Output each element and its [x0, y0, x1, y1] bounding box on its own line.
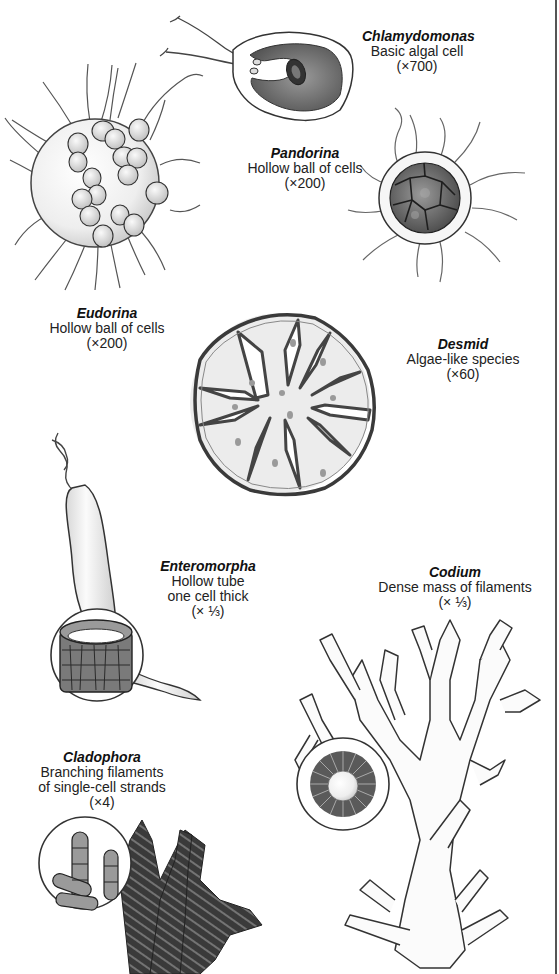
pandorina-illustration	[348, 108, 525, 282]
species-description: Hollow ball of cells	[234, 161, 376, 176]
label-desmid: Desmid Algae-like species (×60)	[392, 337, 534, 382]
species-description: Algae-like species	[392, 352, 534, 367]
species-name: Cladophora	[16, 750, 188, 765]
label-cladophora: Cladophora Branching filaments of single…	[16, 750, 188, 810]
species-description: Basic algal cell	[362, 44, 472, 59]
species-name: Desmid	[392, 337, 534, 352]
label-eudorina: Eudorina Hollow ball of cells (×200)	[36, 306, 178, 351]
magnification: (×200)	[36, 336, 178, 351]
label-codium: Codium Dense mass of filaments (× ⅓)	[360, 565, 550, 610]
label-chlamydomonas: Chlamydomonas Basic algal cell (×700)	[362, 29, 472, 74]
species-name: Codium	[360, 565, 550, 580]
magnification: (×700)	[362, 59, 472, 74]
species-description-line2: of single-cell strands	[16, 780, 188, 795]
species-description: Hollow tube	[148, 574, 268, 589]
species-description-line2: one cell thick	[148, 589, 268, 604]
desmid-illustration	[190, 313, 374, 495]
species-name: Eudorina	[36, 306, 178, 321]
species-name: Pandorina	[234, 146, 376, 161]
cladophora-illustration	[39, 817, 262, 974]
magnification: (×60)	[392, 367, 534, 382]
label-enteromorpha: Enteromorpha Hollow tube one cell thick …	[148, 559, 268, 619]
species-name: Chlamydomonas	[362, 29, 472, 44]
eudorina-illustration	[5, 63, 203, 290]
species-description: Branching filaments	[16, 765, 188, 780]
codium-inset	[297, 738, 389, 830]
magnification: (× ⅓)	[360, 595, 550, 610]
magnification: (× ⅓)	[148, 604, 268, 619]
enteromorpha-inset-cells	[60, 620, 132, 692]
algae-diagram: Chlamydomonas Basic algal cell (×700) Pa…	[0, 0, 559, 974]
chlamydomonas-illustration	[160, 16, 353, 120]
species-name: Enteromorpha	[148, 559, 268, 574]
magnification: (×200)	[234, 176, 376, 191]
species-description: Dense mass of filaments	[360, 580, 550, 595]
species-description: Hollow ball of cells	[36, 321, 178, 336]
label-pandorina: Pandorina Hollow ball of cells (×200)	[234, 146, 376, 191]
magnification: (×4)	[16, 795, 188, 810]
